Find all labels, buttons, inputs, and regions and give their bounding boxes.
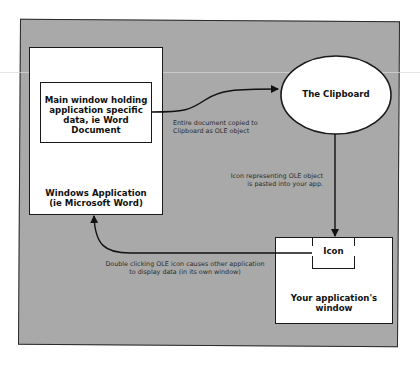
clipboard-label: The Clipboard: [282, 89, 390, 99]
copy-edge-label-2: Clipboard as OLE object: [173, 128, 249, 136]
ole-icon-label: Icon: [312, 246, 355, 256]
activate-edge-label-2: to display data (in its own window): [97, 269, 273, 277]
activate-arrow: [94, 216, 312, 253]
copy-arrow: [152, 89, 278, 112]
diagram-connectors: [0, 0, 420, 365]
paste-edge-label-2: is pasted into your app.: [223, 181, 323, 189]
